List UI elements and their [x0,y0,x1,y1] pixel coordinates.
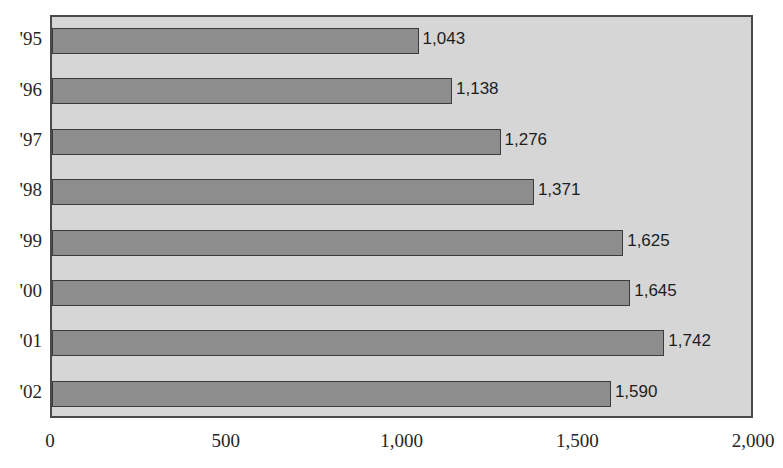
bar [52,330,664,356]
bar [52,381,611,407]
bar-value-label: 1,645 [628,278,677,304]
y-axis-tick-label: '99 [0,230,42,252]
bar-value-label: 1,371 [532,177,581,203]
bar-row [52,67,751,117]
y-axis-tick-label: '01 [0,330,42,352]
y-axis-tick-label: '02 [0,381,42,403]
bar-row [52,319,751,369]
bar-value-label: 1,276 [499,127,548,153]
bar [52,28,419,54]
x-axis-tick-label: 1,500 [556,430,599,452]
bar [52,78,452,104]
x-axis-tick-label: 0 [45,430,55,452]
bar-value-label: 1,742 [662,328,711,354]
bar-row [52,17,751,67]
plot-area [50,15,753,418]
y-axis-tick-label: '00 [0,280,42,302]
bar-value-label: 1,625 [621,228,670,254]
y-axis-tick-label: '97 [0,129,42,151]
bar [52,280,630,306]
bar-rows [52,17,751,416]
bar-value-label: 1,043 [417,26,466,52]
bar-row [52,168,751,218]
bar [52,129,501,155]
bar [52,179,534,205]
bar [52,230,623,256]
y-axis-tick-label: '96 [0,79,42,101]
x-axis-tick-label: 500 [212,430,241,452]
bar-value-label: 1,138 [450,76,499,102]
x-axis-tick-label: 2,000 [732,430,775,452]
bar-value-label: 1,590 [609,379,658,405]
bar-row [52,118,751,168]
bar-chart-figure: '95'96'97'98'99'00'01'02 1,0431,1381,276… [0,0,783,468]
x-axis-tick-label: 1,000 [380,430,423,452]
y-axis-tick-label: '98 [0,179,42,201]
y-axis-tick-label: '95 [0,28,42,50]
